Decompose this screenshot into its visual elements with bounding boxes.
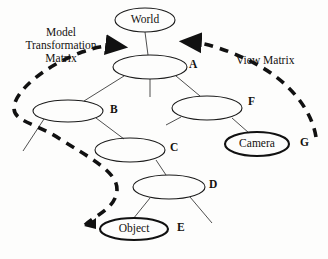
model-transformation-dashed-path[interactable] [14,46,117,225]
node-tag-f: F [248,95,255,108]
annotation-line-1: Model [14,26,108,39]
node-a-ellipse[interactable] [113,55,187,79]
edge-a-f [176,76,200,96]
annotation-line-2: Transformation [14,39,108,52]
model-transformation-matrix-annotation: Model Transformation Matrix [14,26,108,65]
node-camera-label: Camera [225,137,289,150]
node-tag-e: E [177,221,185,234]
node-tag-a: A [189,58,197,71]
node-object-label: Object [100,222,168,235]
annotation-line-3: Matrix [14,52,108,65]
node-b-ellipse[interactable] [33,100,103,122]
node-tag-g: G [300,136,309,149]
edge-f-camera [232,118,249,133]
edge-b-c [96,118,124,139]
node-c-ellipse[interactable] [95,138,165,162]
edge-c-d [156,160,166,175]
node-world-label: World [115,13,175,26]
view-matrix-annotation: View Matrix [236,54,294,67]
diagram-canvas: World Camera Object A B F C G D E Model … [0,0,328,259]
node-tag-b: B [110,103,118,116]
edge-world-a [145,32,148,55]
edge-f-stub [166,117,181,125]
edge-a-b [84,76,124,101]
edge-d-object [133,198,150,219]
node-f-ellipse[interactable] [172,96,242,120]
node-tag-c: C [170,141,178,154]
edge-d-stub [190,197,212,223]
node-tag-d: D [209,178,217,191]
node-d-ellipse[interactable] [133,175,205,199]
